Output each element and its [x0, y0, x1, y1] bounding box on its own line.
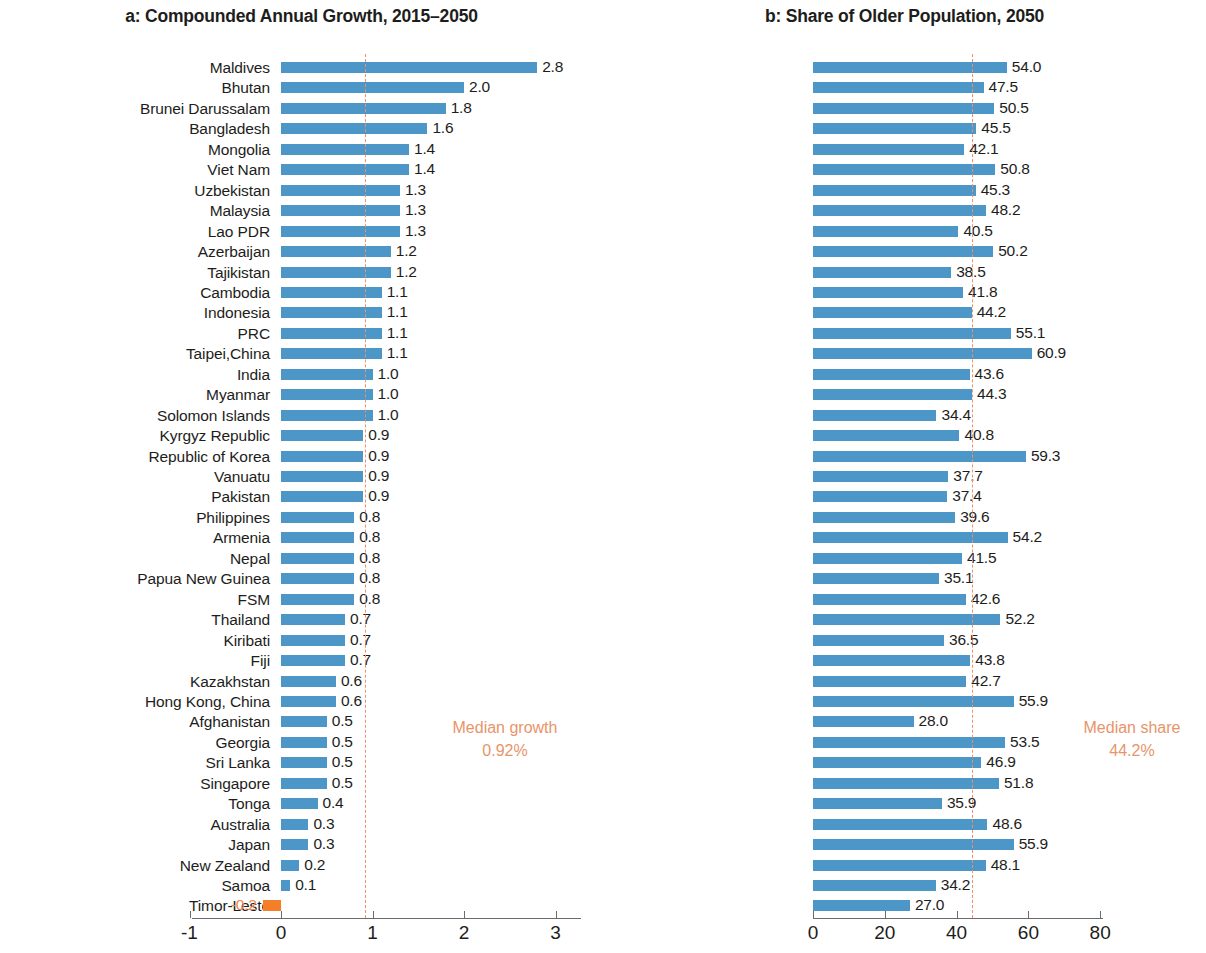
bar: [813, 635, 944, 646]
category-label: Mongolia: [0, 140, 270, 160]
chart-row: Armenia0.8: [0, 528, 603, 548]
category-label: Afghanistan: [0, 712, 270, 732]
x-axis-tick-label: 3: [526, 922, 586, 944]
chart-row: Republic of Korea59.3: [603, 447, 1206, 467]
bar-value-label: 0.8: [359, 569, 380, 589]
x-axis-tick-label: 20: [855, 922, 915, 944]
bar: [281, 205, 400, 216]
bar: [281, 737, 327, 748]
chart-row: Vanuatu0.9: [0, 467, 603, 487]
bar: [281, 287, 382, 298]
x-axis-tick-label: -1: [160, 922, 220, 944]
bar: [813, 267, 951, 278]
bar-value-label: 0.3: [313, 815, 334, 835]
bar-value-label: 0.8: [359, 528, 380, 548]
bar-value-label: 1.3: [405, 201, 426, 221]
bar-value-label: 52.2: [1005, 610, 1034, 630]
chart-row: Solomon Islands34.4: [603, 406, 1206, 426]
chart-row: Pakistan0.9: [0, 487, 603, 507]
category-label: Samoa: [0, 876, 270, 896]
bar: [281, 348, 382, 359]
bar: [813, 512, 955, 523]
bar-value-label: 1.6: [432, 119, 453, 139]
bar-value-label: 60.9: [1037, 344, 1066, 364]
chart-row: Lao PDR40.5: [603, 222, 1206, 242]
bar: [813, 880, 936, 891]
bar: [281, 185, 400, 196]
chart-row: Australia0.3: [0, 815, 603, 835]
chart-row: Tonga35.9: [603, 794, 1206, 814]
bar: [281, 798, 318, 809]
panel-a-median-annotation-line2: 0.92%: [430, 739, 580, 762]
chart-row: Kiribati36.5: [603, 631, 1206, 651]
panel-a-plot-area: Maldives2.8Bhutan2.0Brunei Darussalam1.8…: [0, 0, 603, 953]
chart-row: Thailand0.7: [0, 610, 603, 630]
chart-row: Bhutan47.5: [603, 78, 1206, 98]
chart-row: Taipei,China60.9: [603, 344, 1206, 364]
bar: [813, 471, 948, 482]
bar: [281, 451, 363, 462]
chart-row: Fiji43.8: [603, 651, 1206, 671]
x-axis-tick: [885, 911, 886, 918]
bar-value-label: 51.8: [1004, 774, 1033, 794]
category-label: Georgia: [0, 733, 270, 753]
bar: [281, 614, 345, 625]
bar-value-label: 2.8: [542, 58, 563, 78]
chart-row: Brunei Darussalam1.8: [0, 99, 603, 119]
x-axis-tick: [281, 911, 282, 918]
chart-row: Armenia54.2: [603, 528, 1206, 548]
bar-value-label: 34.4: [941, 406, 970, 426]
bar: [813, 205, 986, 216]
chart-row: Samoa0.1: [0, 876, 603, 896]
panel-a-median-annotation: Median growth 0.92%: [430, 716, 580, 762]
chart-row: FSM42.6: [603, 590, 1206, 610]
bar: [813, 860, 986, 871]
bar-value-label: 28.0: [919, 712, 948, 732]
bar: [813, 532, 1008, 543]
chart-row: Philippines39.6: [603, 508, 1206, 528]
bar: [281, 328, 382, 339]
bar: [813, 451, 1026, 462]
bar: [813, 103, 994, 114]
bar-value-label: 0.9: [368, 487, 389, 507]
x-axis-tick-label: 60: [998, 922, 1058, 944]
chart-row: Tajikistan38.5: [603, 263, 1206, 283]
chart-row: Kazakhstan0.6: [0, 672, 603, 692]
bar-value-label: 39.6: [960, 508, 989, 528]
bar: [813, 737, 1005, 748]
bar-value-label: 34.2: [941, 876, 970, 896]
bar: [281, 778, 327, 789]
category-label: Australia: [0, 815, 270, 835]
chart-row: New Zealand48.1: [603, 856, 1206, 876]
bar: [281, 594, 354, 605]
bar-value-label: 43.8: [975, 651, 1004, 671]
category-label: Maldives: [0, 58, 270, 78]
category-label: Sri Lanka: [0, 753, 270, 773]
category-label: Singapore: [0, 774, 270, 794]
bar-value-label: 0.6: [341, 672, 362, 692]
category-label: Solomon Islands: [0, 406, 270, 426]
chart-row: Uzbekistan45.3: [603, 181, 1206, 201]
chart-row: India43.6: [603, 365, 1206, 385]
chart-row: Maldives54.0: [603, 58, 1206, 78]
chart-row: Malaysia48.2: [603, 201, 1206, 221]
x-axis-line: [813, 918, 1103, 919]
bar: [813, 696, 1014, 707]
bar: [281, 62, 537, 73]
bar: [813, 62, 1007, 73]
x-axis-tick-label: 1: [343, 922, 403, 944]
x-axis-tick: [373, 911, 374, 918]
bar-value-label: 1.4: [414, 140, 435, 160]
bar-value-label: 36.5: [949, 631, 978, 651]
chart-row: Thailand52.2: [603, 610, 1206, 630]
bar-value-label: 0.8: [359, 590, 380, 610]
bar-value-label: 1.8: [451, 99, 472, 119]
category-label: PRC: [0, 324, 270, 344]
bar-value-label: 55.9: [1019, 835, 1048, 855]
panel-b-median-annotation: Median share 44.2%: [1058, 716, 1206, 762]
x-axis-tick-label: 0: [251, 922, 311, 944]
chart-row: Kiribati0.7: [0, 631, 603, 651]
bar-value-label: 45.5: [981, 119, 1010, 139]
panel-a-compounded-annual-growth: a: Compounded Annual Growth, 2015–2050 M…: [0, 0, 603, 953]
bar-value-label: 42.6: [971, 590, 1000, 610]
